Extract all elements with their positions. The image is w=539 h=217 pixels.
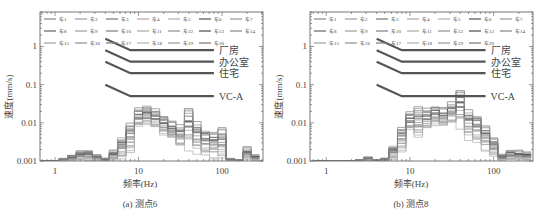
legend-entry: 车11	[422, 28, 432, 35]
y-tick-label: 0.01	[291, 118, 307, 128]
legend-entry: 车1	[59, 16, 67, 23]
criteria-label: VC-A	[219, 91, 244, 102]
legend-entry: 车18	[422, 40, 433, 47]
chart-panel-b: 厂房办公室住宅VC-A车1车2车3车4车5车6车7车8车9车10车11车12车1…	[270, 0, 539, 217]
legend-entry: 车11	[152, 28, 162, 35]
legend-entry: 车13	[214, 28, 225, 35]
criteria-label: 住宅	[491, 67, 511, 79]
y-axis-label: 速度(mm/s)	[3, 74, 14, 118]
plot-frame	[310, 12, 533, 161]
legend-entry: 车10	[121, 28, 132, 35]
x-tick-label: 100	[487, 166, 501, 176]
legend-entry: 车12	[453, 28, 464, 35]
plot-frame	[40, 12, 263, 161]
legend-entry: 车16	[90, 40, 101, 47]
legend-entry: 车20	[214, 40, 225, 47]
legend-entry: 车15	[329, 40, 340, 47]
legend-entry: 车1	[329, 16, 337, 23]
legend-entry: 车10	[391, 28, 402, 35]
legend-entry: 车6	[484, 16, 492, 23]
x-tick-label: 1	[324, 166, 329, 176]
legend-entry: 车8	[329, 28, 337, 35]
criteria-label: 住宅	[219, 67, 239, 79]
legend: 车1车2车3车4车5车6车7车8车9车10车11车12车13车14车15车16车…	[44, 16, 256, 47]
legend-entry: 车19	[183, 40, 194, 47]
x-tick-label: 10	[134, 166, 144, 176]
legend-entry: 车19	[453, 40, 464, 47]
legend-entry: 车3	[391, 16, 399, 23]
criteria-line	[377, 50, 486, 61]
legend-entry: 车9	[360, 28, 368, 35]
x-tick-label: 1	[53, 166, 58, 176]
legend-entry: 车9	[90, 28, 98, 35]
legend-entry: 车5	[183, 16, 191, 23]
legend-entry: 车2	[90, 16, 98, 23]
y-axis-label: 速度(mm/s)	[273, 74, 284, 118]
criteria-label: VC-A	[491, 91, 516, 102]
chart-a-xlabel: 频率(Hz)	[120, 177, 160, 190]
y-tick-label: 0.001	[17, 156, 37, 166]
legend: 车1车2车3车4车5车6车7车8车9车10车11车12车13车14车15车16车…	[314, 16, 526, 47]
legend-entry: 车20	[484, 40, 495, 47]
legend-entry: 车13	[484, 28, 495, 35]
criteria-label: 办公室	[219, 56, 249, 68]
legend-entry: 车3	[121, 16, 129, 23]
legend-entry: 车6	[214, 16, 222, 23]
legend-entry: 车14	[515, 28, 526, 35]
chart-b-xlabel: 频率(Hz)	[391, 177, 431, 190]
legend-entry: 车15	[59, 40, 70, 47]
y-tick-label: 1	[33, 41, 38, 51]
legend-entry: 车2	[360, 16, 368, 23]
legend-entry: 车7	[245, 16, 253, 23]
criteria-line	[105, 85, 214, 96]
legend-entry: 车16	[360, 40, 371, 47]
chart-a-caption: (a) 测点6	[110, 197, 170, 210]
legend-entry: 车18	[152, 40, 163, 47]
y-tick-label: 1	[303, 41, 308, 51]
legend-entry: 车14	[245, 28, 256, 35]
criteria-line	[377, 85, 486, 96]
x-tick-label: 10	[405, 166, 415, 176]
y-tick-label: 0.1	[26, 80, 37, 90]
y-tick-label: 0.01	[21, 118, 37, 128]
legend-entry: 车12	[183, 28, 194, 35]
y-tick-label: 0.001	[287, 156, 307, 166]
legend-entry: 车4	[422, 16, 430, 23]
criteria-line	[105, 50, 214, 61]
criteria-label: 办公室	[491, 56, 521, 68]
legend-entry: 车17	[121, 40, 132, 47]
x-tick-label: 100	[215, 166, 229, 176]
chart-b-caption: (b) 测点8	[381, 197, 441, 210]
legend-entry: 车7	[515, 16, 523, 23]
criteria-line	[105, 62, 214, 73]
legend-entry: 车5	[453, 16, 461, 23]
legend-entry: 车8	[59, 28, 67, 35]
y-tick-label: 0.1	[296, 80, 307, 90]
legend-entry: 车4	[152, 16, 160, 23]
chart-panel-a: 厂房办公室住宅VC-A车1车2车3车4车5车6车7车8车9车10车11车12车1…	[0, 0, 270, 217]
criteria-line	[377, 62, 486, 73]
data-traces	[43, 106, 260, 161]
legend-entry: 车17	[391, 40, 402, 47]
